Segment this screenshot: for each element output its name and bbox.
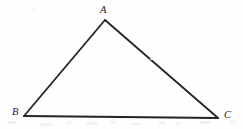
triangle-side-bc	[24, 116, 218, 118]
triangle-side-ac	[105, 20, 218, 118]
triangle-abc	[24, 20, 218, 118]
vertex-label-a: A	[100, 5, 106, 16]
triangle-drawing-canvas	[0, 0, 243, 129]
triangle-side-ab	[24, 20, 105, 116]
vertex-label-b: B	[12, 107, 18, 118]
vertex-label-c: C	[224, 110, 231, 121]
geometry-figure: A B C	[0, 0, 243, 129]
